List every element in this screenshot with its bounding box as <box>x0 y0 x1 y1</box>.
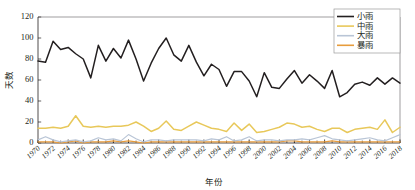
y-tick-label: 80 <box>25 53 34 63</box>
x-tick-label: 1970 <box>25 144 42 161</box>
x-tick-label: 2018 <box>387 144 404 161</box>
y-tick-label: 40 <box>25 95 34 105</box>
x-tick-label: 2014 <box>356 144 373 161</box>
x-tick-label: 1994 <box>206 144 223 161</box>
x-tick-label: 1974 <box>55 144 72 161</box>
x-tick-label: 2002 <box>266 144 283 161</box>
x-tick-label: 2010 <box>326 144 343 161</box>
chart-canvas: 0204060801001201970197219741976197819801… <box>0 0 415 190</box>
legend-label-小雨: 小雨 <box>357 11 373 21</box>
rainfall-days-line-chart: 0204060801001201970197219741976197819801… <box>0 0 415 190</box>
x-tick-label: 1992 <box>190 144 207 161</box>
legend-label-中雨: 中雨 <box>357 21 373 31</box>
x-axis-title: 年份 <box>205 177 223 187</box>
x-tick-label: 1998 <box>236 144 253 161</box>
x-tick-label: 2008 <box>311 144 328 161</box>
y-tick-label: 60 <box>25 74 34 84</box>
x-tick-label: 1980 <box>100 144 117 161</box>
x-tick-label: 1972 <box>40 144 57 161</box>
x-tick-label: 1990 <box>175 144 192 161</box>
legend-label-暴雨: 暴雨 <box>357 40 373 50</box>
x-tick-label: 2000 <box>251 144 268 161</box>
y-tick-label: 100 <box>21 32 34 42</box>
x-tick-label: 1986 <box>145 144 162 161</box>
x-tick-label: 1996 <box>221 144 238 161</box>
x-tick-label: 1978 <box>85 144 102 161</box>
y-axis-title: 天数 <box>4 71 14 89</box>
x-tick-label: 1988 <box>160 144 177 161</box>
x-tick-label: 2004 <box>281 144 298 161</box>
x-tick-label: 1976 <box>70 144 87 161</box>
series-line-中雨 <box>38 116 400 133</box>
y-tick-label: 20 <box>25 116 34 126</box>
y-tick-label: 120 <box>21 11 34 21</box>
x-tick-label: 2012 <box>341 144 358 161</box>
x-tick-label: 2016 <box>371 144 388 161</box>
x-tick-label: 1984 <box>130 144 147 161</box>
legend-label-大雨: 大雨 <box>357 30 373 40</box>
x-tick-label: 2006 <box>296 144 313 161</box>
x-tick-label: 1982 <box>115 144 132 161</box>
